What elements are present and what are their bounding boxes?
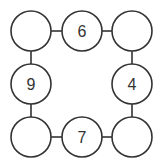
circle-top-left	[11, 11, 51, 51]
circle-bottom-right	[112, 117, 152, 157]
circle-bottom-left	[11, 117, 51, 157]
label-top-middle: 6	[78, 23, 87, 40]
label-middle-right: 4	[128, 76, 137, 93]
label-middle-left: 9	[27, 76, 36, 93]
circle-puzzle-diagram: 6 9 4 7	[0, 0, 160, 163]
circle-top-right	[112, 11, 152, 51]
label-bottom-middle: 7	[78, 129, 87, 146]
